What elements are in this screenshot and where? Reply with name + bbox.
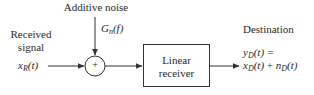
output-eq-line2: xD(t) + nD(t): [243, 60, 297, 73]
destination-label: Destination: [243, 24, 294, 35]
noise-label: Additive noise: [60, 2, 132, 13]
linear-receiver-block: Linear receiver: [143, 44, 210, 87]
summer-plus-icon: +: [89, 60, 101, 70]
input-label: Received signal: [4, 28, 58, 54]
receiver-label-line2: receiver: [144, 67, 209, 79]
input-signal-label: xR(t): [18, 60, 38, 73]
noise-psd-label: Gn(f): [101, 23, 123, 36]
block-diagram: Additive noise Gn(f) Received signal xR(…: [0, 0, 314, 95]
receiver-label-line1: Linear: [144, 54, 209, 66]
